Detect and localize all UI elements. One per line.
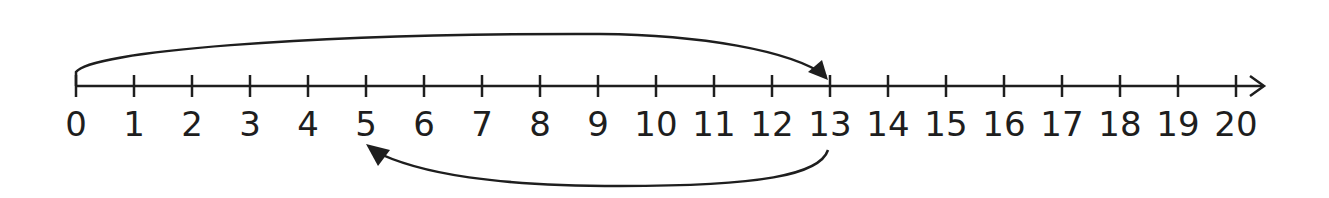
jump-arc-backward (372, 150, 828, 186)
number-line-svg: 01234567891011121314151617181920 (0, 0, 1329, 198)
ticks (76, 75, 1236, 97)
tick-label: 10 (634, 104, 677, 144)
tick-label: 9 (587, 104, 609, 144)
tick-label: 15 (924, 104, 967, 144)
tick-label: 8 (529, 104, 551, 144)
tick-label: 7 (471, 104, 493, 144)
tick-label: 12 (750, 104, 793, 144)
tick-label: 2 (181, 104, 203, 144)
tick-label: 5 (355, 104, 377, 144)
tick-label: 4 (297, 104, 319, 144)
tick-label: 20 (1214, 104, 1257, 144)
arrowhead-forward-icon (808, 60, 828, 80)
tick-label: 18 (1098, 104, 1141, 144)
tick-label: 6 (413, 104, 435, 144)
tick-label: 1 (123, 104, 145, 144)
tick-label: 14 (866, 104, 909, 144)
tick-label: 16 (982, 104, 1025, 144)
arrowhead-backward-icon (366, 144, 390, 166)
tick-label: 19 (1156, 104, 1199, 144)
number-line-diagram: 01234567891011121314151617181920 (0, 0, 1329, 198)
tick-label: 3 (239, 104, 261, 144)
tick-label: 0 (65, 104, 87, 144)
tick-label: 17 (1040, 104, 1083, 144)
tick-label: 13 (808, 104, 851, 144)
tick-labels: 01234567891011121314151617181920 (65, 104, 1257, 144)
tick-label: 11 (692, 104, 735, 144)
